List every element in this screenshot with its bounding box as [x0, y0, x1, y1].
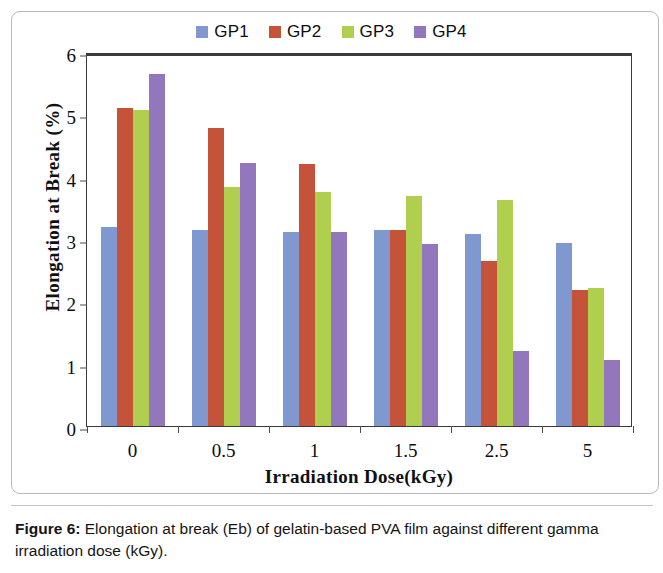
x-tick-label: 1	[310, 440, 320, 462]
x-tick-mark	[269, 426, 270, 433]
y-tick-label: 1	[67, 357, 77, 379]
legend-swatch-gp2	[269, 26, 281, 38]
bar-gp4-2-5	[513, 351, 529, 426]
bars-layer	[87, 56, 631, 426]
figure-caption: Figure 6: Elongation at break (Eb) of ge…	[15, 518, 651, 563]
x-tick-label: 1.5	[394, 440, 418, 462]
legend-label-gp2: GP2	[287, 22, 322, 42]
y-tick-mark	[80, 180, 87, 181]
y-tick-mark	[80, 56, 87, 57]
legend-entry-gp1: GP1	[196, 22, 249, 42]
bar-gp1-0	[101, 227, 117, 426]
bar-gp3-5	[588, 288, 604, 426]
bar-gp2-1-5	[390, 230, 406, 426]
bar-gp3-0	[133, 110, 149, 426]
y-tick-label: 4	[67, 170, 77, 192]
x-tick-mark	[451, 426, 452, 433]
bar-gp4-5	[604, 360, 620, 426]
legend-label-gp3: GP3	[360, 22, 395, 42]
x-tick-mark	[542, 426, 543, 433]
y-tick-label: 6	[67, 45, 77, 67]
x-tick-label: 0	[128, 440, 138, 462]
bar-gp2-5	[572, 290, 588, 426]
y-tick-mark	[80, 118, 87, 119]
bar-gp4-1-5	[422, 244, 438, 426]
figure-caption-text: Elongation at break (Eb) of gelatin-base…	[15, 520, 599, 559]
legend-swatch-gp3	[342, 26, 354, 38]
bar-gp1-0-5	[192, 230, 208, 426]
chart-legend: GP1GP2GP3GP4	[0, 22, 663, 42]
y-axis-title: Elongation at Break (%)	[42, 57, 64, 357]
figure-caption-label: Figure 6:	[15, 520, 80, 537]
bar-gp1-1-5	[374, 230, 390, 426]
x-tick-mark	[87, 426, 88, 433]
bar-gp4-0-5	[240, 163, 256, 426]
bar-group	[269, 52, 360, 426]
bar-gp4-1	[331, 232, 347, 426]
x-tick-label: 5	[583, 440, 593, 462]
x-axis-title: Irradiation Dose(kGy)	[86, 466, 632, 488]
bar-gp3-1-5	[406, 196, 422, 426]
plot-area: 0123456 00.511.52.55	[86, 53, 632, 427]
legend-entry-gp2: GP2	[269, 22, 322, 42]
legend-swatch-gp1	[196, 26, 208, 38]
bar-gp2-2-5	[481, 261, 497, 426]
legend-label-gp4: GP4	[432, 22, 467, 42]
y-tick-label: 3	[67, 232, 77, 254]
bar-group	[360, 52, 451, 426]
bar-gp3-0-5	[224, 187, 240, 426]
x-tick-mark	[178, 426, 179, 433]
bar-gp4-0	[149, 74, 165, 426]
y-tick-label: 0	[67, 419, 77, 441]
legend-entry-gp4: GP4	[414, 22, 467, 42]
bar-gp1-1	[283, 232, 299, 426]
y-tick-label: 2	[67, 294, 77, 316]
y-tick-mark	[80, 243, 87, 244]
legend-label-gp1: GP1	[214, 22, 249, 42]
y-tick-mark	[80, 367, 87, 368]
x-tick-label: 2.5	[485, 440, 509, 462]
legend-swatch-gp4	[414, 26, 426, 38]
bar-gp2-0	[117, 108, 133, 426]
x-tick-mark	[360, 426, 361, 433]
bar-group	[178, 52, 269, 426]
x-tick-label: 0.5	[212, 440, 236, 462]
bar-gp2-1	[299, 164, 315, 426]
legend-entry-gp3: GP3	[342, 22, 395, 42]
x-tick-mark	[633, 426, 634, 433]
bar-gp1-5	[556, 243, 572, 426]
bar-group	[87, 52, 178, 426]
bar-gp3-2-5	[497, 200, 513, 426]
bar-gp3-1	[315, 192, 331, 426]
bar-chart: Elongation at Break (%) 0123456 00.511.5…	[0, 0, 663, 500]
bar-group	[451, 52, 542, 426]
bar-gp1-2-5	[465, 234, 481, 426]
y-tick-label: 5	[67, 107, 77, 129]
y-tick-mark	[80, 305, 87, 306]
caption-divider	[11, 505, 653, 506]
bar-group	[542, 52, 633, 426]
y-tick-mark	[80, 430, 87, 431]
bar-gp2-0-5	[208, 128, 224, 426]
